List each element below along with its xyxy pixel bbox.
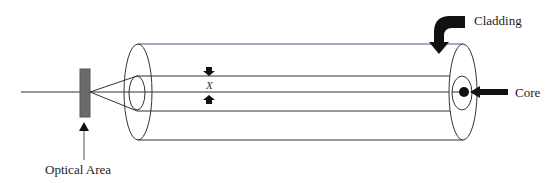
core-dot: [459, 87, 469, 97]
core-input-face: [129, 76, 145, 110]
down-arrow-icon: [203, 67, 215, 76]
core-label: Core: [515, 85, 541, 100]
fiber-diagram: Optical Area X Cladding Core: [0, 0, 557, 183]
core-arrow-shaft: [478, 89, 508, 95]
cladding-label: Cladding: [474, 13, 522, 28]
optical-area-label: Optical Area: [45, 162, 111, 177]
optical-area-arrow-head: [79, 122, 89, 131]
dimension-x-arrows: X: [203, 67, 215, 104]
up-arrow-icon: [203, 95, 215, 104]
optical-area-element: [80, 69, 90, 117]
dimension-x-label: X: [205, 79, 214, 91]
